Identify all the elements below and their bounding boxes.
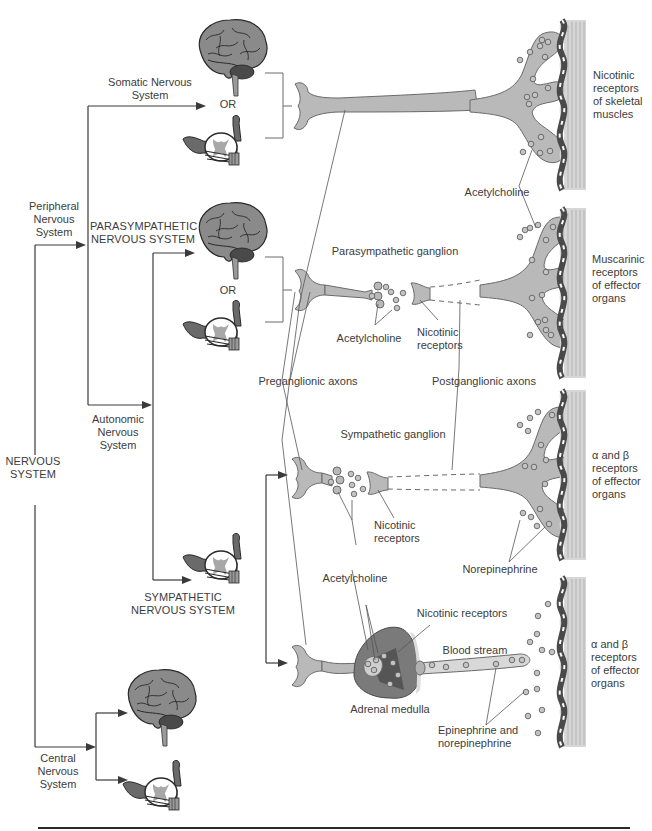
leader-lines [282, 110, 545, 725]
brain-icon-parasympathetic [199, 203, 267, 279]
sympathetic-nervous-system-label: SYMPATHETIC NERVOUS SYSTEM [130, 591, 236, 617]
autonomic-nervous-system-label: Autonomic Nervous System [88, 413, 148, 452]
adrenal-effector-receptors-label: α and β receptors of effector organs [591, 638, 649, 690]
sympathetic-ganglion-label: Sympathetic ganglion [338, 428, 448, 441]
parasympathetic-nervous-system-label: PARASYMPATHETIC NERVOUS SYSTEM [90, 220, 196, 246]
postganglionic-axons-label: Postganglionic axons [432, 375, 532, 388]
brain-icon-central [128, 670, 196, 746]
preganglionic-axons-label: Preganglionic axons [250, 375, 366, 388]
or-label-parasympathetic: OR [218, 284, 238, 297]
or-label-somatic: OR [218, 98, 238, 111]
muscle-strip-skeletal [560, 20, 586, 190]
parasympathetic-ganglion-label: Parasympathetic ganglion [330, 245, 460, 258]
brackets [265, 73, 292, 322]
nicotinic-receptors-parasympathetic-label: Nicotinic receptors [417, 326, 477, 352]
central-nervous-system-label: Central Nervous System [28, 752, 88, 791]
nicotinic-receptors-adrenal-label: Nicotinic receptors [412, 607, 512, 620]
acetylcholine-sympathetic-label: Acetylcholine [320, 572, 390, 585]
skeletal-receptors-label: Nicotinic receptors of skeletal muscles [593, 69, 651, 121]
somatic-motor-neuron [294, 32, 565, 163]
spinal-cord-icon-parasympathetic [183, 300, 241, 350]
muscle-strip-adrenal [560, 577, 586, 747]
nicotinic-receptors-sympathetic-label: Nicotinic receptors [374, 519, 434, 545]
adrenal-medulla-label: Adrenal medulla [350, 703, 430, 716]
sympathetic-postganglionic-axon [388, 474, 480, 490]
sympathetic-preganglionic-neuron [292, 457, 388, 498]
nervous-system-label: NERVOUS SYSTEM [2, 455, 64, 481]
norepinephrine-label: Norepinephrine [460, 563, 540, 576]
epinephrine-norepinephrine-label: Epinephrine and norepinephrine [438, 724, 528, 750]
acetylcholine-parasympathetic-label: Acetylcholine [334, 332, 404, 345]
parasympathetic-preganglionic-neuron [295, 269, 430, 310]
parasympathetic-postganglionic-axon [430, 280, 480, 305]
spinal-cord-icon-central [123, 760, 181, 810]
sympathetic-effector-receptors-label: α and β receptors of effector organs [592, 449, 650, 501]
somatic-nervous-system-label: Somatic Nervous System [105, 76, 195, 102]
peripheral-nervous-system-label: Peripheral Nervous System [24, 200, 84, 239]
muscarinic-receptors-label: Muscarinic receptors of effector organs [592, 253, 650, 305]
spinal-cord-icon-sympathetic [183, 533, 241, 583]
adrenal-medulla-gland [354, 627, 421, 698]
spinal-cord-icon-somatic [183, 115, 241, 165]
blood-stream-vessel [415, 654, 530, 675]
brain-icon-somatic [199, 20, 267, 96]
acetylcholine-somatic-label: Acetylcholine [462, 186, 532, 199]
released-hormones [523, 601, 555, 736]
blood-stream-label: Blood stream [440, 644, 510, 657]
